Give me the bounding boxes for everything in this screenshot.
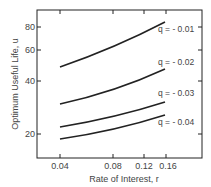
x-tick-0.04: 0.04 [51,161,69,171]
y-axis-label: Optimum Useful Life, u [10,38,20,130]
curve-q-0.03 [60,102,165,127]
y-tick-80: 80 [25,22,35,32]
y-tick-60: 60 [25,45,35,55]
x-tick-0.12: 0.12 [135,161,153,171]
curve-q-0.02 [60,69,165,104]
curves [60,22,165,139]
curve-label-q-0.02: q = - 0.02 [158,57,194,67]
curve-label-q-0.03: q = - 0.03 [158,88,194,98]
chart: 80 60 40 20 0.04 0.08 0.12 0.16 Rate of … [0,0,211,187]
curve-q-0.01 [60,22,165,67]
curve-label-q-0.04: q = - 0.04 [158,117,194,127]
x-axis-label: Rate of Interest, r [89,174,159,184]
curve-label-q-0.01: q = - 0.01 [158,24,194,34]
y-tick-20: 20 [25,129,35,139]
curve-q-0.04 [60,115,165,139]
x-tick-0.08: 0.08 [104,161,122,171]
x-tick-0.16: 0.16 [159,161,177,171]
y-tick-40: 40 [25,76,35,86]
